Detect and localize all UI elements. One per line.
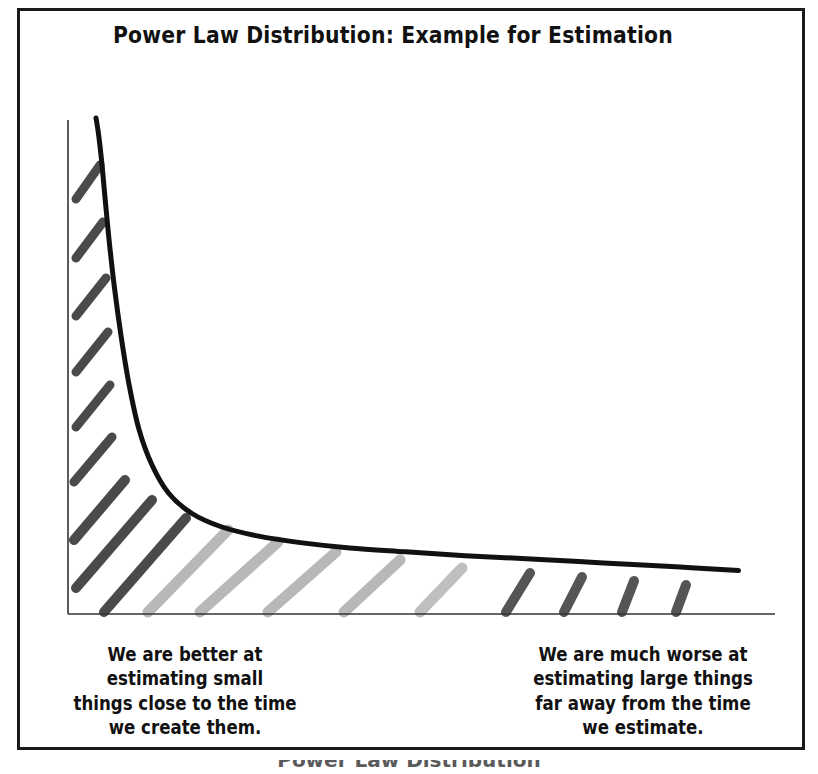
- annotation-right-line-2: estimating large things: [519, 667, 768, 692]
- annotation-right-line-3: far away from the time: [519, 691, 768, 716]
- annotation-right-line-1: We are much worse at: [519, 642, 768, 667]
- annotation-left-line-2: estimating small: [66, 667, 304, 692]
- annotation-right: We are much worse at estimating large th…: [519, 642, 768, 741]
- annotation-left-line-3: things close to the time: [66, 691, 304, 716]
- annotation-right-line-4: we estimate.: [519, 716, 768, 741]
- annotation-left: We are better at estimating small things…: [66, 642, 304, 741]
- footer-caption-clip: Power Law Distribution: [0, 760, 818, 774]
- figure-page: Power Law Distribution: Example for Esti…: [0, 0, 818, 774]
- footer-caption: Power Law Distribution: [0, 760, 818, 772]
- annotation-left-line-4: we create them.: [66, 716, 304, 741]
- annotation-left-line-1: We are better at: [66, 642, 304, 667]
- page-title: Power Law Distribution: Example for Esti…: [113, 22, 695, 49]
- figure-frame: [17, 8, 805, 750]
